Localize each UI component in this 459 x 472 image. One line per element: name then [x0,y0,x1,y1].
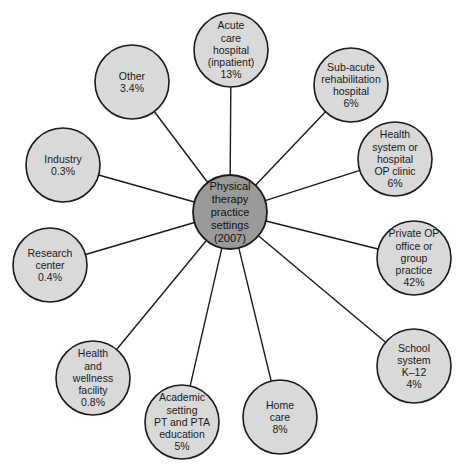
node-private-op-office-label-line: practice [396,264,433,276]
spoke-industry [99,175,195,202]
node-research-center-label-line: 0.4% [38,271,62,283]
node-sub-acute-rehabilitation-hospital-label-line: rehabilitation [321,73,381,85]
hub-label-line: therapy [212,193,249,205]
node-health-system-op-clinic: Healthsystem orhospitalOP clinic6% [358,122,432,196]
node-academic-setting: AcademicsettingPT and PTAeducation5% [145,385,219,459]
node-health-system-op-clinic-label-line: hospital [377,153,413,165]
node-acute-care-hospital-label-line: (inpatient) [208,56,255,68]
node-academic-setting-label-line: Academic [159,391,205,403]
node-acute-care-hospital-label-line: Acute [218,19,245,31]
node-home-care-label-line: 8% [272,423,287,435]
hub-label-line: settings [211,219,249,231]
spoke-health-wellness-facility [117,241,207,350]
node-private-op-office-label-line: group [401,252,428,264]
node-health-system-op-clinic-label-line: OP clinic [374,165,415,177]
node-academic-setting-label-line: education [159,428,205,440]
node-private-op-office-label-line: 42% [403,276,424,288]
spoke-home-care [239,248,271,381]
node-school-system-label-line: 4% [406,378,421,390]
hub-label-line: Physical [210,180,251,192]
node-acute-care-hospital-label-line: 13% [220,68,241,80]
node-research-center-label-line: center [35,259,65,271]
node-other-label-line: Other [119,70,146,82]
hub-node: Physicaltherapypracticesettings(2007) [193,175,267,249]
node-industry-label-line: 0.3% [51,165,75,177]
spoke-research-center [86,223,195,255]
node-health-wellness-facility: Healthandwellnessfacility0.8% [56,341,130,415]
node-acute-care-hospital-label-line: hospital [213,44,249,56]
node-health-system-op-clinic-label-line: 6% [387,177,402,189]
node-home-care-label-line: care [270,411,291,423]
node-acute-care-hospital-label-line: care [221,32,242,44]
node-other-label: Other3.4% [119,70,146,94]
node-private-op-office-label-line: Private OP [389,227,440,239]
node-academic-setting-label-line: PT and PTA [154,416,210,428]
node-sub-acute-rehabilitation-hospital-label-line: hospital [333,85,369,97]
hub-label-line: (2007) [214,232,246,244]
spoke-sub-acute-rehabilitation-hospital [256,112,326,185]
node-industry-label-line: Industry [44,153,82,165]
node-private-op-office: Private OPoffice orgrouppractice42% [377,221,451,295]
node-home-care-label-line: Home [266,399,294,411]
node-health-system-op-clinic-label-line: Health [380,128,411,140]
node-school-system: SchoolsystemK–124% [377,329,451,403]
node-sub-acute-rehabilitation-hospital-label-line: 6% [343,97,358,109]
node-health-wellness-facility-label-line: 0.8% [81,396,105,408]
node-private-op-office-label-line: office or [395,240,433,252]
spoke-school-system [258,236,385,343]
spoke-private-op-office [266,221,378,249]
hub-label-line: practice [211,206,250,218]
node-school-system-label-line: system [397,354,431,366]
spoke-other [154,112,207,183]
hub-label: Physicaltherapypracticesettings(2007) [210,180,251,244]
node-other: Other3.4% [95,45,169,119]
node-industry: Industry0.3% [26,128,100,202]
node-health-wellness-facility-label-line: wellness [72,372,113,384]
node-school-system-label-line: School [398,342,430,354]
node-research-center: Researchcenter0.4% [13,228,87,302]
node-school-system-label-line: K–12 [402,366,427,378]
node-acute-care-hospital: Acutecarehospital(inpatient)13% [194,13,268,87]
node-sub-acute-rehabilitation-hospital-label-line: Sub-acute [327,61,375,73]
node-sub-acute-rehabilitation-hospital: Sub-acuterehabilitationhospital6% [314,48,388,122]
node-home-care: Homecare8% [243,380,317,454]
practice-settings-diagram: Acutecarehospital(inpatient)13%Sub-acute… [0,0,459,472]
spoke-health-system-op-clinic [265,170,360,200]
spoke-academic-setting [190,248,222,386]
node-health-system-op-clinic-label-line: system or [372,141,418,153]
node-health-wellness-facility-label-line: Health [78,347,109,359]
node-other-label-line: 3.4% [120,82,144,94]
node-health-wellness-facility-label-line: facility [78,384,108,396]
node-health-wellness-facility-label-line: and [84,360,102,372]
spoke-acute-care-hospital [230,87,231,175]
node-research-center-label-line: Research [28,247,73,259]
node-academic-setting-label-line: setting [167,404,198,416]
node-academic-setting-label-line: 5% [174,440,189,452]
